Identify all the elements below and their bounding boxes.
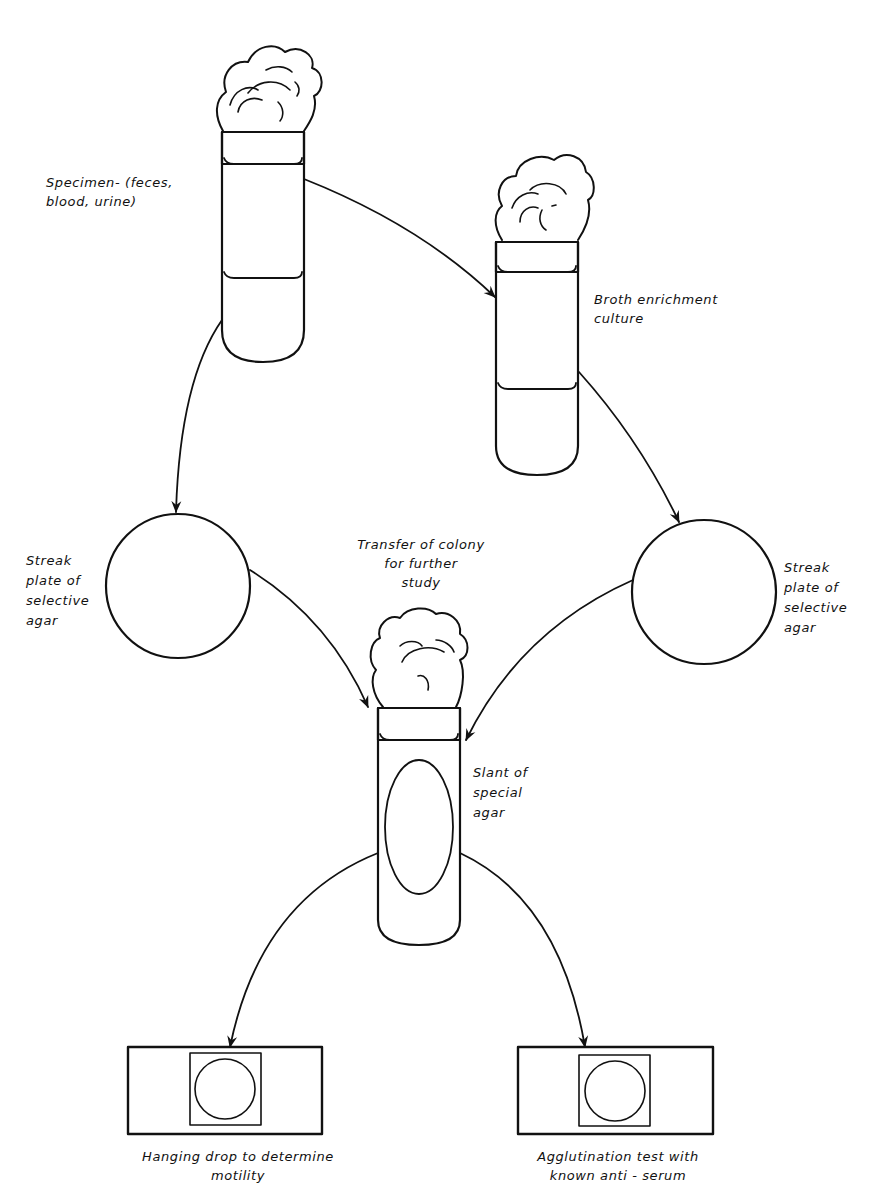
arrow-specimen-to-broth <box>304 179 495 297</box>
agglutination-label: Agglutination test with known anti - ser… <box>508 1147 728 1185</box>
broth-enrichment-label: Broth enrichment culture <box>594 290 718 328</box>
arrow-slant-to-hanging-drop <box>230 853 378 1047</box>
arrow-specimen-to-streak-left <box>176 320 222 512</box>
hanging-drop-label: Hanging drop to determine motility <box>118 1147 358 1185</box>
slant-special-agar-label: Slant of special agar <box>473 763 528 823</box>
streak-plate-right-label: Streak plate of selective agar <box>784 558 847 638</box>
streak-plate-left-icon <box>106 514 250 658</box>
arrow-streak-right-to-slant <box>466 580 633 740</box>
hanging-drop-slide-icon <box>128 1047 322 1134</box>
arrow-broth-to-streak-right <box>579 372 679 522</box>
specimen-label: Specimen- (feces, blood, urine) <box>46 173 173 211</box>
slant-tube-icon <box>371 608 468 945</box>
broth-tube-icon <box>496 155 594 475</box>
specimen-tube-icon <box>217 46 322 362</box>
streak-plate-left-label: Streak plate of selective agar <box>26 551 89 631</box>
agglutination-slide-icon <box>518 1047 713 1134</box>
transfer-colony-label: Transfer of colony for further study <box>336 535 506 592</box>
flow-diagram: Specimen- (feces, blood, urine) Broth en… <box>0 0 872 1203</box>
streak-plate-right-icon <box>632 520 776 664</box>
arrow-slant-to-agglutination <box>460 853 585 1047</box>
